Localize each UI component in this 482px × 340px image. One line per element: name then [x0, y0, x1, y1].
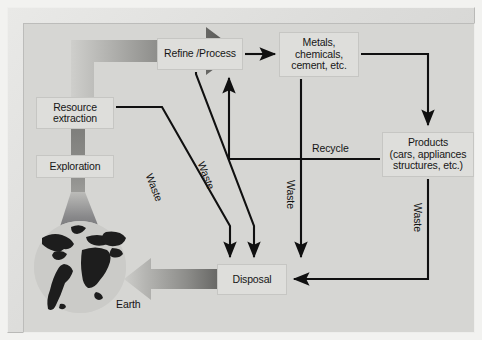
figure-bevel: Refine /Process Metals, chemicals, cemen… [7, 7, 475, 333]
node-refine-process-label: Refine /Process [164, 48, 236, 60]
edge-label-recycle: Recycle [312, 143, 349, 155]
figure-frame: Refine /Process Metals, chemicals, cemen… [0, 0, 482, 340]
edge-label-waste-metals: Waste [285, 180, 297, 209]
node-products-label-3: structures, etc.) [393, 160, 463, 172]
node-refine-process[interactable]: Refine /Process [157, 38, 243, 70]
node-products[interactable]: Products (cars, appliances structures, e… [382, 132, 474, 177]
node-exploration-label: Exploration [50, 161, 101, 173]
node-exploration[interactable]: Exploration [36, 155, 114, 178]
node-disposal-label: Disposal [232, 274, 271, 286]
node-metals[interactable]: Metals, chemicals, cement, etc. [279, 32, 359, 77]
node-resource-extraction[interactable]: Resource extraction [36, 97, 114, 129]
annotation-earth: Earth [116, 299, 141, 311]
diagram-canvas: Refine /Process Metals, chemicals, cemen… [23, 23, 475, 333]
node-resource-label-2: extraction [53, 113, 97, 125]
node-disposal[interactable]: Disposal [217, 264, 287, 295]
earth-globe [34, 221, 126, 313]
edge-label-waste-products: Waste [412, 203, 424, 232]
node-metals-label-3: cement, etc. [291, 60, 346, 72]
